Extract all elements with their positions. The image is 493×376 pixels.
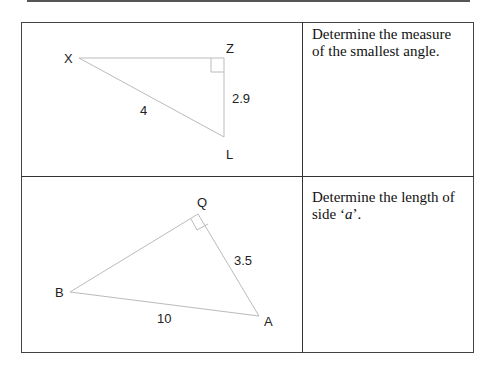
problem-1-prompt: Determine the measure of the smallest an…	[312, 26, 462, 60]
prompt-suffix: ’.	[352, 206, 361, 222]
side-bq	[70, 214, 198, 292]
vertex-label-q: Q	[197, 195, 207, 210]
side-label-qa: 3.5	[234, 253, 252, 268]
vertex-label-x: X	[64, 51, 73, 66]
prompt-prefix: Determine the length of side ‘	[312, 189, 455, 222]
side-label-zl: 2.9	[232, 91, 250, 106]
triangle-xzl: X Z L 4 2.9	[64, 41, 250, 162]
vertex-label-z: Z	[226, 41, 234, 56]
vertex-label-a: A	[264, 314, 273, 329]
problem-2-prompt: Determine the length of side ‘a’.	[312, 189, 462, 223]
triangle-qba: Q B A 10 3.5	[55, 195, 273, 329]
side-label-xl: 4	[140, 103, 147, 118]
vertex-label-b: B	[55, 285, 64, 300]
side-label-ba: 10	[157, 311, 171, 326]
vertex-label-l: L	[226, 147, 233, 162]
right-angle-mark-q	[191, 219, 208, 230]
right-angle-mark-z	[211, 58, 224, 72]
side-xl	[79, 58, 224, 137]
